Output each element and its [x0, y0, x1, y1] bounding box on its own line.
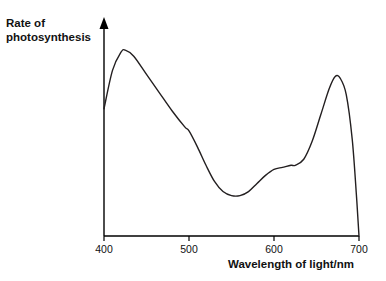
- plot-area: 400 500 600 700: [0, 0, 386, 281]
- x-tick-label-0: 400: [95, 243, 113, 255]
- x-tick-label-3: 700: [350, 243, 368, 255]
- x-tick-label-1: 500: [180, 243, 198, 255]
- chart-container: Rate of photosynthesis 400 500 600 700 W…: [0, 0, 386, 281]
- y-axis-arrowhead: [100, 17, 109, 29]
- x-tick-marks: [104, 236, 359, 241]
- x-axis-label: Wavelength of light/nm: [228, 258, 354, 270]
- x-tick-label-2: 600: [265, 243, 283, 255]
- photosynthesis-curve: [104, 50, 359, 236]
